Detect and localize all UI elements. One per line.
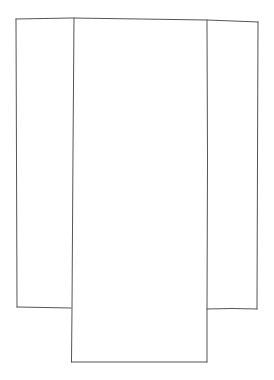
center-panel-right-edge (207, 20, 208, 362)
sketch-canvas (0, 0, 274, 380)
center-panel-left-edge (72, 18, 75, 362)
left-panel-outer-edge (16, 19, 17, 307)
top-edge (16, 18, 258, 22)
right-panel-outer-edge (257, 22, 258, 309)
right-panel-bottom-edge (207, 309, 257, 310)
left-panel-bottom-edge (17, 307, 71, 308)
